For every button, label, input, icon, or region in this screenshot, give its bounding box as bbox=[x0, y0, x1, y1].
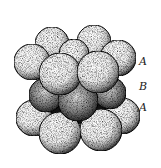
layer-label-b: B bbox=[139, 81, 147, 92]
hcp-sphere-diagram: ABA bbox=[0, 0, 161, 168]
layer-label-a: A bbox=[139, 56, 147, 67]
layer-label-a: A bbox=[139, 102, 147, 113]
sphere-packing-illustration bbox=[0, 0, 161, 168]
top-a-sphere bbox=[39, 53, 81, 95]
top-a-sphere bbox=[77, 51, 119, 93]
